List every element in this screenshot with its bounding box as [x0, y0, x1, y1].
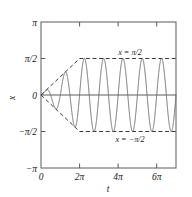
xtick-label-4pi: 4π: [113, 172, 123, 182]
chart-svg: π π/2 0 −π/2 −π 0 2π 4π 6π t x x = π/2 x…: [0, 0, 192, 197]
ytick-label-neg-pi: −π: [26, 164, 37, 174]
annotation-upper-asymptote: x = π/2: [117, 48, 142, 57]
xtick-label-zero: 0: [39, 172, 44, 182]
chart-figure: π π/2 0 −π/2 −π 0 2π 4π 6π t x x = π/2 x…: [0, 0, 192, 197]
y-axis-label: x: [7, 95, 17, 101]
ytick-label-pi: π: [32, 18, 37, 28]
ytick-label-half-pi: π/2: [25, 54, 37, 64]
x-axis-label: t: [107, 184, 110, 194]
annotation-lower-asymptote: x = −π/2: [114, 135, 144, 144]
xtick-label-2pi: 2π: [75, 172, 85, 182]
ytick-label-zero: 0: [32, 91, 37, 101]
ytick-label-neg-half-pi: −π/2: [18, 127, 37, 137]
xtick-label-6pi: 6π: [152, 172, 162, 182]
